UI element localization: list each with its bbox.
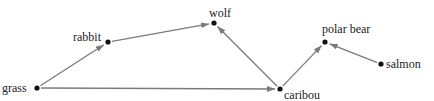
edge-caribou-to-polar_bear (283, 46, 322, 86)
node-salmon (378, 61, 383, 66)
edge-salmon-to-polar_bear (330, 44, 378, 63)
node-caribou (277, 86, 282, 91)
edge-rabbit-to-wolf (112, 24, 209, 41)
node-label-polar-bear: polar bear (322, 23, 370, 35)
edge-grass-to-caribou (41, 88, 275, 89)
food-web-diagram: grass rabbit wolf caribou polar bear sal… (0, 0, 434, 101)
node-polar_bear (322, 39, 327, 44)
node-label-caribou: caribou (284, 89, 320, 101)
node-label-rabbit: rabbit (73, 31, 101, 43)
node-wolf (211, 20, 216, 25)
node-label-salmon: salmon (386, 58, 421, 70)
node-rabbit (105, 39, 110, 44)
node-label-wolf: wolf (209, 7, 231, 19)
node-grass (34, 85, 39, 90)
edge-grass-to-rabbit (40, 45, 103, 86)
node-label-grass: grass (2, 82, 27, 94)
edge-caribou-to-wolf (218, 27, 278, 87)
